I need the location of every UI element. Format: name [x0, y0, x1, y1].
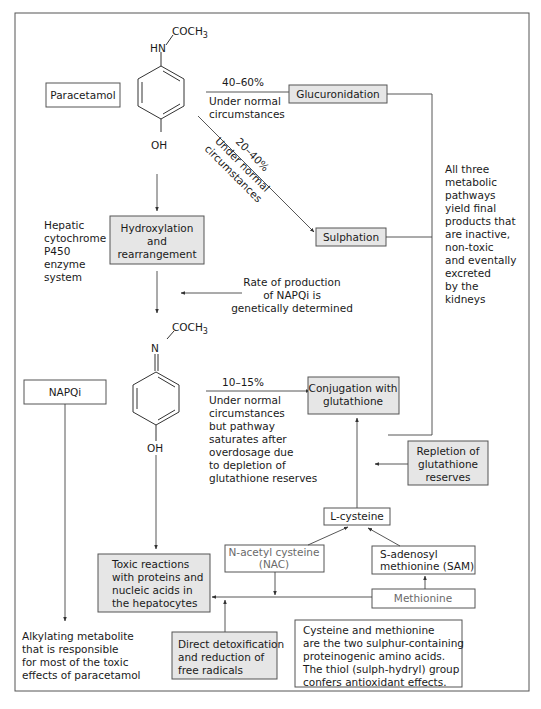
svg-text:All three: All three — [445, 163, 489, 175]
napqi-label: NAPQi — [49, 386, 82, 398]
napqi-acetyl-group: COCH3 — [172, 321, 208, 336]
arrow-nac-to-lcysteine — [308, 527, 348, 545]
svg-text:Rate of production: Rate of production — [243, 276, 340, 288]
svg-text:metabolic: metabolic — [445, 176, 497, 188]
toxic-label-3: nucleic acids in — [112, 584, 193, 596]
svg-text:products that: products that — [445, 215, 516, 227]
svg-text:Hepatic: Hepatic — [44, 219, 84, 231]
svg-text:effects of paracetamol: effects of paracetamol — [22, 669, 141, 681]
metabolism-diagram: HN COCH3 OH Paracetamol 40–60% Under nor… — [0, 0, 541, 709]
glucuronidation-condition-2: circumstances — [209, 108, 285, 120]
rate-note: Rate of production of NAPQi is genetical… — [231, 276, 353, 314]
svg-text:saturates after: saturates after — [209, 433, 287, 445]
svg-text:by the: by the — [445, 280, 478, 292]
svg-text:enzyme: enzyme — [44, 258, 86, 270]
hydroxylation-label-3: rearrangement — [117, 248, 196, 260]
napqi-hydroxyl-group: OH — [147, 442, 163, 454]
detox-label-2: and reduction of — [178, 651, 265, 663]
nac-label-2: (NAC) — [259, 558, 289, 570]
hydroxylation-label-1: Hydroxylation — [121, 222, 194, 234]
svg-text:are the two sulphur-containing: are the two sulphur-containing — [303, 637, 464, 649]
svg-text:Under normal: Under normal — [209, 394, 281, 406]
glucuronidation-condition-1: Under normal — [209, 95, 281, 107]
svg-text:circumstances: circumstances — [209, 407, 285, 419]
acetyl-group: COCH3 — [172, 25, 208, 40]
svg-text:Alkylating metabolite: Alkylating metabolite — [22, 630, 134, 642]
toxic-label-1: Toxic reactions — [111, 558, 189, 570]
svg-text:genetically determined: genetically determined — [231, 302, 353, 314]
pathways-note: All three metabolic pathways yield final… — [445, 163, 516, 305]
conjugation-percent: 10–15% — [222, 376, 264, 388]
svg-text:glutathione reserves: glutathione reserves — [209, 472, 317, 484]
svg-text:excreted: excreted — [445, 267, 491, 279]
nac-label-1: N-acetyl cysteine — [229, 546, 320, 558]
l-cysteine-label: L-cysteine — [330, 510, 384, 522]
sulphation-annotation: 20–40% Under normal circumstances — [203, 123, 284, 204]
conjugation-condition: Under normal circumstances but pathway s… — [209, 394, 317, 484]
sam-label-2: methionine (SAM) — [380, 560, 474, 572]
toxic-label-2: with proteins and — [112, 571, 204, 583]
imine-group: N — [151, 342, 159, 354]
svg-text:but pathway: but pathway — [209, 420, 275, 432]
svg-text:The thiol (sulph-hydryl) group: The thiol (sulph-hydryl) group — [302, 663, 460, 675]
sam-label-1: S-adenosyl — [380, 548, 438, 560]
hydroxyl-group: OH — [151, 139, 167, 151]
napqi-structure: N COCH3 OH — [133, 321, 208, 454]
paracetamol-label: Paracetamol — [50, 89, 115, 101]
svg-text:are inactive,: are inactive, — [445, 228, 510, 240]
svg-text:for most of the toxic: for most of the toxic — [22, 656, 129, 668]
repletion-label-2: glutathione — [418, 458, 478, 470]
svg-text:confers antioxidant effects.: confers antioxidant effects. — [303, 676, 447, 688]
enzyme-note: Hepatic cytochrome P450 enzyme system — [44, 219, 106, 283]
svg-text:of NAPQi is: of NAPQi is — [263, 289, 321, 301]
svg-text:proteinogenic amino acids.: proteinogenic amino acids. — [303, 650, 445, 662]
svg-text:yield final: yield final — [445, 202, 496, 214]
arrow-sam-to-lcysteine — [368, 528, 400, 546]
sulphation-label: Sulphation — [323, 231, 379, 243]
detox-label-1: Direct detoxification — [178, 638, 284, 650]
repletion-label-1: Repletion of — [417, 445, 480, 457]
napqi-description: Alkylating metabolite that is responsibl… — [22, 630, 141, 681]
conjugation-label-1: Conjugation with — [309, 382, 398, 394]
hydroxylation-label-2: and — [147, 235, 167, 247]
glucuronidation-percent: 40–60% — [222, 76, 264, 88]
svg-text:overdosage due: overdosage due — [209, 446, 293, 458]
svg-text:that is responsible: that is responsible — [22, 643, 119, 655]
amine-group: HN — [150, 42, 166, 54]
glucuronidation-label: Glucuronidation — [296, 88, 379, 100]
svg-text:cytochrome: cytochrome — [44, 232, 106, 244]
methionine-label: Methionine — [394, 592, 452, 604]
paracetamol-structure: HN COCH3 OH — [138, 25, 208, 151]
svg-text:to depletion of: to depletion of — [209, 459, 286, 471]
svg-text:system: system — [44, 271, 82, 283]
svg-text:and eventally: and eventally — [445, 254, 516, 266]
toxic-label-4: the hepatocytes — [112, 597, 197, 609]
detox-label-3: free radicals — [178, 664, 243, 676]
svg-text:kidneys: kidneys — [445, 293, 485, 305]
svg-text:non-toxic: non-toxic — [445, 241, 494, 253]
repletion-label-3: reserves — [426, 471, 471, 483]
svg-text:pathways: pathways — [445, 189, 496, 201]
svg-text:P450: P450 — [44, 245, 70, 257]
svg-text:Cysteine and methionine: Cysteine and methionine — [303, 624, 435, 636]
conjugation-label-2: glutathione — [323, 395, 383, 407]
